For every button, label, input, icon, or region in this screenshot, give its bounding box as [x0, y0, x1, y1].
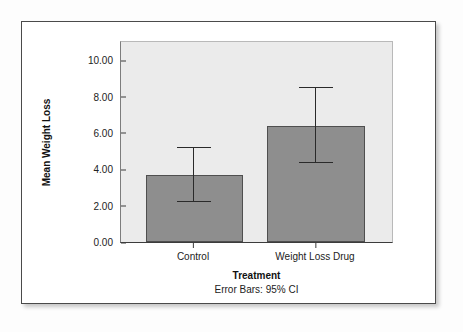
bar-weight-loss-drug[interactable] — [267, 126, 365, 242]
y-tick-4: 8.00 — [94, 91, 121, 102]
x-axis: Control Weight Loss Drug Treatment Error… — [120, 243, 393, 301]
bars-layer — [121, 42, 392, 242]
y-tick-5: 10.00 — [88, 55, 121, 66]
errorbar-stem-control — [193, 147, 194, 202]
x-tick-label-weight-loss-drug: Weight Loss Drug — [275, 251, 354, 262]
x-tick-label-control: Control — [177, 251, 209, 262]
plot-area: 0.00 2.00 4.00 6.00 8.00 — [120, 41, 393, 243]
y-axis-title: Mean Weight Loss — [40, 41, 54, 243]
x-tick-weight-loss-drug: Weight Loss Drug — [275, 243, 354, 262]
bar-control[interactable] — [146, 175, 243, 242]
y-tick-label-2: 4.00 — [94, 164, 121, 175]
bar-chart-figure: Mean Weight Loss 0.00 2.00 4.00 — [22, 22, 437, 305]
x-tick-mark-weight-loss-drug — [315, 243, 316, 248]
x-tick-control: Control — [177, 243, 209, 262]
errorbar-cap-upper-control — [177, 147, 211, 148]
chart-footnote: Error Bars: 95% CI — [120, 284, 393, 295]
y-tick-label-5: 10.00 — [88, 55, 121, 66]
x-axis-title: Treatment — [120, 270, 393, 281]
y-tick-label-3: 6.00 — [94, 127, 121, 138]
y-tick-label-1: 2.00 — [94, 200, 121, 211]
y-tick-3: 6.00 — [94, 127, 121, 138]
y-tick-2: 4.00 — [94, 164, 121, 175]
errorbar-cap-upper-weight-loss-drug — [299, 87, 333, 88]
errorbar-cap-lower-control — [177, 201, 211, 202]
y-tick-0: 0.00 — [94, 237, 121, 248]
y-tick-1: 2.00 — [94, 200, 121, 211]
y-tick-label-0: 0.00 — [94, 237, 121, 248]
y-axis-title-text: Mean Weight Loss — [42, 98, 53, 186]
page-background: Mean Weight Loss 0.00 2.00 4.00 — [0, 0, 463, 332]
errorbar-stem-weight-loss-drug — [315, 87, 316, 162]
y-tick-label-4: 8.00 — [94, 91, 121, 102]
x-tick-mark-control — [193, 243, 194, 248]
figure-card: Mean Weight Loss 0.00 2.00 4.00 — [21, 21, 436, 304]
errorbar-cap-lower-weight-loss-drug — [299, 162, 333, 163]
